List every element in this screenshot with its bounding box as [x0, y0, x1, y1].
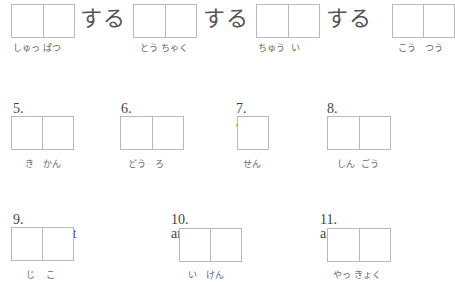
- suru-suffix-1: する: [80, 8, 126, 30]
- box-divider: [423, 5, 424, 37]
- item-number: 9.: [13, 212, 24, 227]
- box-divider: [43, 5, 44, 37]
- reading-7: せん: [243, 160, 261, 169]
- answer-box-11[interactable]: [327, 228, 391, 262]
- answer-box-4[interactable]: [392, 4, 455, 38]
- reading-10: い けん: [188, 271, 224, 280]
- box-divider: [152, 117, 153, 149]
- box-divider: [165, 5, 166, 37]
- answer-box-2[interactable]: [133, 4, 197, 38]
- reading-8: しん ごう: [337, 160, 379, 169]
- answer-box-10[interactable]: [179, 228, 242, 262]
- answer-box-3[interactable]: [256, 4, 320, 38]
- reading-11: やっ きょく: [333, 271, 381, 280]
- answer-box-7[interactable]: [237, 116, 269, 150]
- item-number: 11.: [320, 212, 337, 227]
- box-divider: [210, 229, 211, 261]
- item-number: 6.: [121, 101, 132, 116]
- answer-box-5[interactable]: [11, 116, 74, 150]
- item-number: 8.: [327, 101, 338, 116]
- reading-6: どう ろ: [128, 160, 164, 169]
- answer-box-8[interactable]: [327, 116, 391, 150]
- answer-box-6[interactable]: [120, 116, 184, 150]
- item-number: 7.: [236, 101, 247, 116]
- answer-box-1[interactable]: [11, 4, 75, 38]
- answer-box-9[interactable]: [11, 227, 74, 261]
- box-divider: [359, 117, 360, 149]
- item-number: 10.: [171, 212, 189, 227]
- reading-5: き かん: [25, 160, 61, 169]
- reading-2: とう ちゃく: [140, 44, 188, 53]
- suru-suffix-3: する: [326, 8, 372, 30]
- reading-1: しゅっ ぱつ: [13, 44, 61, 53]
- box-divider: [359, 229, 360, 261]
- box-divider: [42, 117, 43, 149]
- reading-3: ちゅう い: [258, 44, 300, 53]
- reading-4: こう つう: [398, 44, 443, 53]
- box-divider: [288, 5, 289, 37]
- suru-suffix-2: する: [203, 8, 249, 30]
- box-divider: [42, 228, 43, 260]
- item-number: 5.: [13, 101, 24, 116]
- reading-9: じ こ: [26, 271, 55, 280]
